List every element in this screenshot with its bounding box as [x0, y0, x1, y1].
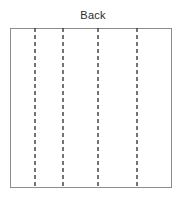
back-panel-rectangle	[10, 28, 172, 188]
panel-title: Back	[0, 9, 186, 22]
pattern-diagram: Back	[0, 0, 186, 200]
